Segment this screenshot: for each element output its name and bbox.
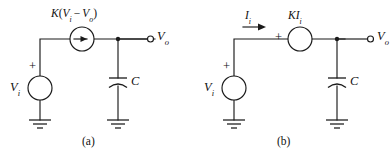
input-polarity-b: + bbox=[223, 60, 230, 73]
output-label-a: Vo bbox=[157, 30, 169, 45]
independent-source-b bbox=[222, 76, 246, 100]
dependent-source-b-label: KIi bbox=[288, 10, 302, 24]
node-dot-a bbox=[116, 37, 120, 41]
current-arrow-b-head bbox=[258, 24, 266, 31]
input-source-a-label: Vi bbox=[10, 81, 20, 96]
ground-symbol-b-input bbox=[223, 120, 245, 128]
input-source-b-var: V bbox=[204, 80, 212, 94]
wire-b-input-to-source bbox=[234, 39, 288, 76]
caption-a: (a) bbox=[82, 136, 95, 148]
caption-b: (b) bbox=[277, 136, 290, 148]
gain-symbol-b: K bbox=[288, 9, 296, 21]
capacitor-a-label: C bbox=[131, 75, 139, 88]
term2-sub-a: o bbox=[89, 15, 93, 24]
input-source-b-label: Vi bbox=[204, 81, 214, 96]
output-terminal-b bbox=[368, 36, 374, 42]
ground-symbol-b-cap bbox=[326, 120, 348, 128]
dependent-voltage-source-b bbox=[288, 27, 312, 51]
input-source-a-sub: i bbox=[18, 88, 20, 98]
paren-close-a: ) bbox=[93, 7, 97, 19]
gain-symbol-a: K bbox=[51, 7, 59, 19]
input-source-a-var: V bbox=[10, 80, 18, 94]
capacitor-b-letter: C bbox=[350, 74, 358, 88]
input-source-b-sub: i bbox=[212, 88, 214, 98]
gain-var-b: I bbox=[296, 9, 300, 21]
gain-sub-b: i bbox=[300, 17, 302, 26]
wire-a-input-to-source bbox=[40, 39, 70, 76]
ground-symbol-a-cap bbox=[107, 120, 129, 128]
capacitor-a-letter: C bbox=[131, 74, 139, 88]
output-a-var: V bbox=[157, 29, 165, 43]
output-b-sub: o bbox=[385, 37, 389, 47]
capacitor-b-label: C bbox=[350, 75, 358, 88]
output-b-var: V bbox=[377, 29, 385, 43]
term1-var-a: V bbox=[63, 7, 70, 19]
input-current-label-b: Ii bbox=[245, 10, 251, 24]
dependent-source-a-label: K(Vi−Vo) bbox=[51, 8, 97, 22]
node-dot-b bbox=[335, 37, 339, 41]
minus-sign-a: − bbox=[74, 7, 81, 19]
current-b-sub: i bbox=[249, 17, 251, 26]
ground-symbol-a-input bbox=[29, 120, 51, 128]
input-polarity-a: + bbox=[29, 60, 36, 73]
output-a-sub: o bbox=[165, 37, 169, 47]
independent-source-a bbox=[28, 76, 52, 100]
output-terminal-a bbox=[148, 36, 154, 42]
output-label-b: Vo bbox=[377, 30, 389, 45]
figure-container: K(Vi−Vo) Vi + C Vo (a) Ii KIi + Vi + C V… bbox=[0, 0, 390, 155]
term1-sub-a: i bbox=[70, 15, 72, 24]
source-polarity-b: + bbox=[275, 31, 282, 44]
circuit-a-graphics bbox=[0, 0, 390, 155]
